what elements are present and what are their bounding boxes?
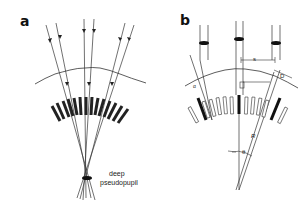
radius-label-r: R [251, 133, 255, 139]
pseudopupil-label: pseudopupil [100, 179, 138, 186]
deep-label: deep [109, 170, 125, 177]
panel-label-b: b [180, 12, 190, 28]
angle-label-theta: θ [242, 149, 245, 155]
angle-label-alpha: α [193, 84, 196, 89]
diameter-label-d: D [280, 73, 284, 79]
panel-a: a deep pseudopupil [0, 0, 150, 213]
panel-b: b s D α R θ [150, 0, 298, 213]
spacing-label-s: s [253, 56, 256, 62]
panel-label-a: a [20, 13, 29, 29]
panel-b-diagram [150, 0, 298, 213]
